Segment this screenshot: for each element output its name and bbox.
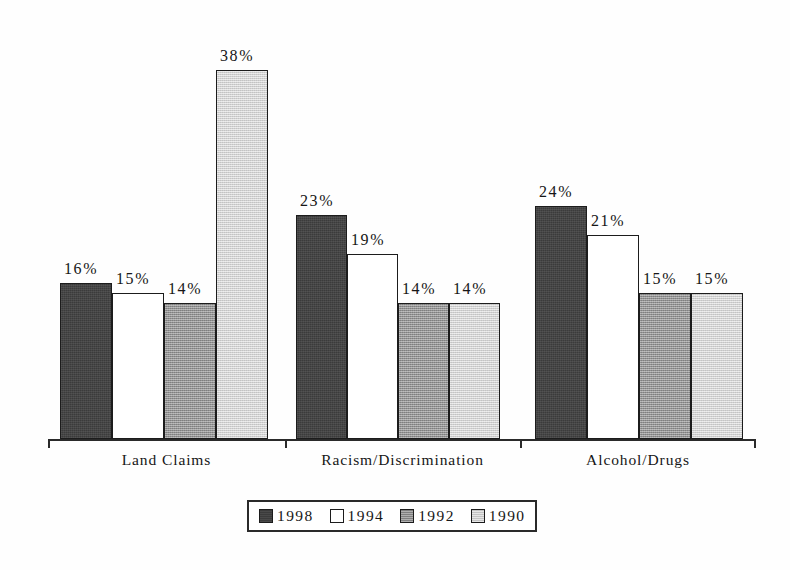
chart-legend: 1998199419921990 [247, 500, 537, 532]
bar-1992-land-claims [164, 303, 216, 439]
bar-value-label: 15% [116, 271, 150, 287]
category-label-2: Alcohol/Drugs [520, 452, 756, 468]
axis-tick-group-2 [520, 439, 522, 448]
legend-item-1994[interactable]: 1994 [330, 508, 385, 524]
category-label-0: Land Claims [48, 452, 285, 468]
bar-value-label: 23% [300, 193, 334, 209]
bar-1990-land-claims [216, 70, 268, 439]
legend-item-1990[interactable]: 1990 [471, 508, 526, 524]
bar-1990-racism-discrimination [449, 303, 500, 439]
legend-swatch-icon [471, 509, 485, 523]
x-axis-line [48, 439, 756, 441]
bar-1990-alcohol-drugs [691, 293, 743, 439]
bar-1994-alcohol-drugs [587, 235, 639, 439]
legend-swatch-icon [330, 509, 344, 523]
legend-item-1992[interactable]: 1992 [400, 508, 455, 524]
legend-label: 1992 [418, 508, 455, 524]
bar-1992-alcohol-drugs [639, 293, 691, 439]
bar-1992-racism-discrimination [398, 303, 449, 439]
bar-1994-racism-discrimination [347, 254, 398, 439]
bar-1994-land-claims [112, 293, 164, 439]
bar-1998-land-claims [60, 283, 112, 439]
bar-chart: 16%15%14%38%23%19%14%14%24%21%15%15% Lan… [0, 0, 790, 570]
bar-value-label: 19% [351, 232, 385, 248]
bar-value-label: 15% [695, 271, 729, 287]
plot-area: 16%15%14%38%23%19%14%14%24%21%15%15% Lan… [0, 0, 790, 470]
bar-value-label: 21% [591, 213, 625, 229]
legend-swatch-icon [259, 509, 273, 523]
axis-tick-start [48, 439, 50, 448]
bar-value-label: 14% [453, 281, 487, 297]
bar-1998-racism-discrimination [296, 215, 347, 439]
legend-label: 1998 [277, 508, 314, 524]
axis-tick-end [754, 439, 756, 448]
bar-value-label: 14% [402, 281, 436, 297]
bar-value-label: 38% [220, 48, 254, 64]
legend-label: 1994 [348, 508, 385, 524]
bar-value-label: 15% [643, 271, 677, 287]
bar-value-label: 16% [64, 261, 98, 277]
bar-value-label: 14% [168, 281, 202, 297]
bar-1998-alcohol-drugs [535, 206, 587, 439]
legend-label: 1990 [489, 508, 526, 524]
axis-tick-group-1 [285, 439, 287, 448]
bar-value-label: 24% [539, 184, 573, 200]
legend-item-1998[interactable]: 1998 [259, 508, 314, 524]
legend-swatch-icon [400, 509, 414, 523]
category-label-1: Racism/Discrimination [285, 452, 520, 468]
